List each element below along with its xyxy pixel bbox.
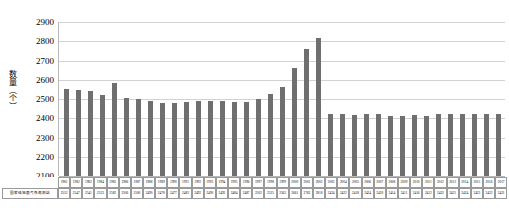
year-cell: 1999 [277, 177, 289, 188]
bar[interactable] [340, 114, 345, 176]
bar[interactable] [244, 102, 249, 176]
bar[interactable] [496, 114, 501, 176]
bar[interactable] [220, 101, 225, 176]
bar[interactable] [448, 114, 453, 176]
bar[interactable] [424, 116, 429, 176]
bar-slot [120, 22, 132, 176]
bar-slot [96, 22, 108, 176]
bar[interactable] [472, 114, 477, 176]
bar[interactable] [184, 102, 189, 176]
bar[interactable] [292, 68, 297, 176]
value-cell: 2487 [240, 188, 252, 199]
year-cell: 2009 [398, 177, 410, 188]
value-cell: 2424 [325, 188, 337, 199]
year-cell: 1985 [107, 177, 119, 188]
value-cell: 2818 [313, 188, 325, 199]
year-cell: 1997 [252, 177, 264, 188]
year-cell: 2013 [447, 177, 459, 188]
bar[interactable] [160, 103, 165, 176]
bar-series [59, 22, 505, 176]
bar[interactable] [304, 49, 309, 176]
value-cell: 2484 [228, 188, 240, 199]
bar[interactable] [76, 90, 81, 176]
bar[interactable] [484, 114, 489, 176]
bar[interactable] [328, 114, 333, 176]
year-cell: 2003 [325, 177, 337, 188]
bar[interactable] [208, 101, 213, 176]
bar[interactable] [388, 116, 393, 176]
year-cell: 1983 [82, 177, 94, 188]
table-row-years: 1981198219831984198519861987198819891990… [2, 177, 507, 188]
bar[interactable] [124, 98, 129, 176]
bar-slot [240, 22, 252, 176]
bar[interactable] [112, 83, 117, 176]
year-cell: 1987 [131, 177, 143, 188]
value-cell: 2661 [289, 188, 301, 199]
bar[interactable] [376, 114, 381, 176]
bar[interactable] [352, 115, 357, 176]
bar[interactable] [316, 38, 321, 176]
bar[interactable] [412, 115, 417, 176]
value-cell: 2547 [70, 188, 82, 199]
bar[interactable] [460, 114, 465, 176]
bar[interactable] [436, 114, 441, 176]
bar-slot [288, 22, 300, 176]
value-cell: 2502 [252, 188, 264, 199]
value-cell: 2523 [94, 188, 106, 199]
table-row-header: 国家级地面气象观测站 [2, 188, 58, 199]
bar-slot [372, 22, 384, 176]
year-cells: 1981198219831984198519861987198819891990… [58, 177, 507, 188]
bar[interactable] [364, 114, 369, 176]
bar-slot [84, 22, 96, 176]
bar[interactable] [136, 99, 141, 176]
year-cell: 2005 [349, 177, 361, 188]
year-cell: 1984 [94, 177, 106, 188]
year-cell: 2004 [337, 177, 349, 188]
value-cell: 2582 [107, 188, 119, 199]
year-cell: 1992 [192, 177, 204, 188]
bar-chart: 数量（个） 2900280027002600250024002300220021… [0, 0, 509, 211]
value-cell: 2420 [374, 188, 386, 199]
bar[interactable] [64, 89, 69, 176]
value-cell: 2418 [349, 188, 361, 199]
bar[interactable] [256, 99, 261, 176]
value-cell: 2500 [131, 188, 143, 199]
bar-slot [72, 22, 84, 176]
bar[interactable] [280, 87, 285, 176]
bar-slot [348, 22, 360, 176]
bar-slot [384, 22, 396, 176]
bar-slot [276, 22, 288, 176]
bar[interactable] [100, 95, 105, 176]
value-cell: 2422 [434, 188, 446, 199]
year-cell: 1988 [143, 177, 155, 188]
y-tick-label: 2500 [36, 95, 54, 104]
bar[interactable] [88, 91, 93, 176]
year-cell: 2008 [386, 177, 398, 188]
year-cell: 1998 [264, 177, 276, 188]
bar[interactable] [232, 102, 237, 176]
year-cell: 1994 [216, 177, 228, 188]
bar[interactable] [172, 103, 177, 176]
bar-slot [480, 22, 492, 176]
y-axis-title: 数量（个） [2, 70, 16, 110]
value-cell: 2421 [495, 188, 507, 199]
bar[interactable] [196, 101, 201, 176]
year-cell: 1989 [155, 177, 167, 188]
bar[interactable] [268, 94, 273, 176]
bar-slot [456, 22, 468, 176]
bar[interactable] [400, 116, 405, 176]
bar-slot [216, 22, 228, 176]
bar-slot [252, 22, 264, 176]
year-cell: 2000 [289, 177, 301, 188]
value-cell: 2424 [459, 188, 471, 199]
year-cell: 1982 [70, 177, 82, 188]
value-cell: 2477 [167, 188, 179, 199]
year-cell: 2011 [422, 177, 434, 188]
year-cell: 2010 [410, 177, 422, 188]
value-cell: 2490 [204, 188, 216, 199]
value-cells: 2552254725412523258225062500249024782477… [58, 188, 507, 199]
bar[interactable] [148, 101, 153, 176]
year-cell: 2016 [483, 177, 495, 188]
year-cell: 2007 [374, 177, 386, 188]
table-row-values: 国家级地面气象观测站 25522547254125232582250625002… [2, 188, 507, 199]
